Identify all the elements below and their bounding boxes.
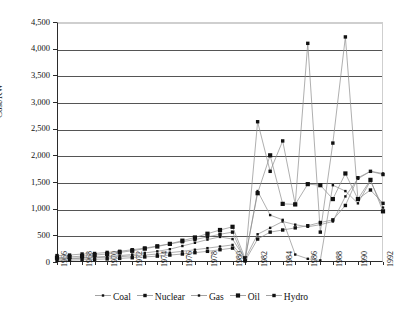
x-axis-tick-label: 1986 <box>311 251 319 267</box>
x-axis-tick <box>233 262 234 265</box>
x-axis-tick <box>270 262 271 265</box>
legend-marker-icon <box>95 291 111 302</box>
x-axis-tick <box>95 262 96 265</box>
x-axis-tick <box>258 262 259 265</box>
x-axis-tick-label: 1966 <box>61 251 69 267</box>
x-axis-tick <box>182 262 183 265</box>
x-axis-tick <box>195 262 196 265</box>
x-axis-tick <box>295 262 296 265</box>
x-axis-tick-label: 1990 <box>361 251 369 267</box>
x-axis-tick-label: 1988 <box>336 251 344 267</box>
x-axis-tick <box>107 262 108 265</box>
x-axis-tick <box>283 262 284 265</box>
x-axis-tick <box>132 262 133 265</box>
x-axis-tick-label: 1974 <box>161 251 169 267</box>
legend-marker-icon <box>137 291 153 302</box>
legend-item-nuclear[interactable]: Nuclear <box>137 291 185 302</box>
x-axis-tick-label: 1980 <box>236 251 244 267</box>
x-axis-tick <box>220 262 221 265</box>
legend-label: Hydro <box>284 292 308 302</box>
chart-container: Cost/KW 05001,0001,5002,0002,5003,0003,5… <box>0 0 403 316</box>
legend-marker-icon <box>230 291 246 302</box>
x-axis-tick <box>383 262 384 265</box>
legend-item-gas[interactable]: Gas <box>191 291 224 302</box>
legend-label: Coal <box>113 292 131 302</box>
x-axis-tick <box>82 262 83 265</box>
x-axis-tick <box>170 262 171 265</box>
x-axis-tick-label: 1978 <box>211 251 219 267</box>
legend-marker-icon <box>266 291 282 302</box>
x-axis-tick <box>345 262 346 265</box>
legend-item-coal[interactable]: Coal <box>95 291 131 302</box>
x-axis-tick <box>333 262 334 265</box>
legend-marker-icon <box>191 291 207 302</box>
x-axis-tick-label: 1972 <box>136 251 144 267</box>
x-axis-tick <box>245 262 246 265</box>
x-axis-tick-label: 1984 <box>286 251 294 267</box>
x-axis-tick-label: 1976 <box>186 251 194 267</box>
x-axis-tick <box>120 262 121 265</box>
x-axis-tick <box>157 262 158 265</box>
legend-item-hydro[interactable]: Hydro <box>266 291 308 302</box>
x-axis-tick <box>320 262 321 265</box>
x-axis-tick-label: 1970 <box>111 251 119 267</box>
x-axis-tick <box>145 262 146 265</box>
x-axis-tick <box>308 262 309 265</box>
legend-label: Gas <box>209 292 224 302</box>
x-axis-tick <box>358 262 359 265</box>
x-axis-tick <box>207 262 208 265</box>
x-axis: 1966196819701972197419761978198019821984… <box>0 0 403 316</box>
x-axis-tick <box>70 262 71 265</box>
x-axis-tick <box>370 262 371 265</box>
x-axis-tick <box>57 262 58 265</box>
x-axis-tick-label: 1982 <box>261 251 269 267</box>
legend-label: Nuclear <box>155 292 185 302</box>
x-axis-tick-label: 1992 <box>387 251 395 267</box>
legend-label: Oil <box>248 292 260 302</box>
legend-item-oil[interactable]: Oil <box>230 291 260 302</box>
x-axis-tick-label: 1968 <box>86 251 94 267</box>
chart-legend: CoalNuclearGasOilHydro <box>0 291 403 302</box>
